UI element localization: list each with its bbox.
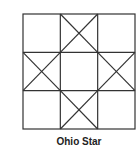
grid-border — [23, 14, 135, 129]
diagram-caption: Ohio Star — [23, 136, 135, 147]
